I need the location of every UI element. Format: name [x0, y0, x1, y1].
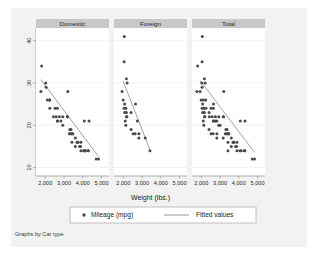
data-point [123, 111, 126, 114]
data-point [58, 115, 61, 118]
data-point [235, 141, 238, 144]
data-point [46, 98, 49, 101]
data-point [202, 98, 205, 101]
data-point [202, 124, 205, 127]
data-point [74, 136, 77, 139]
data-point [212, 103, 215, 106]
data-point [82, 149, 85, 152]
data-point [137, 132, 140, 135]
data-point [148, 149, 151, 152]
data-point [56, 107, 59, 110]
data-point [227, 132, 230, 135]
panel-title: Total [222, 20, 235, 27]
data-point [59, 120, 62, 123]
x-tick-label: 3,000 [57, 180, 71, 186]
data-point [232, 141, 235, 144]
y-tick-label: 30 [26, 80, 32, 86]
data-point [39, 90, 42, 93]
data-point [212, 132, 215, 135]
data-point [48, 107, 51, 110]
stata-graph: 10203040Domestic2,0003,0004,0005,000Fore… [11, 8, 307, 247]
data-point [201, 86, 204, 89]
data-point [126, 81, 129, 84]
data-point [66, 115, 69, 118]
data-point [230, 136, 233, 139]
data-point [79, 145, 82, 148]
data-point [123, 103, 126, 106]
data-point [217, 115, 220, 118]
data-point [212, 107, 215, 110]
data-point [235, 145, 238, 148]
data-point [240, 149, 243, 152]
data-point [70, 128, 73, 131]
data-point [61, 124, 64, 127]
data-point [125, 77, 128, 80]
data-point [123, 35, 126, 38]
panel-domestic: Domestic2,0003,0004,0005,000 [36, 19, 109, 186]
data-point [124, 107, 127, 110]
data-point [222, 115, 225, 118]
data-point [201, 103, 204, 106]
data-point [87, 120, 90, 123]
y-tick-label: 10 [26, 164, 32, 170]
panel-plot-background [192, 28, 265, 176]
data-point [45, 86, 48, 89]
data-point [211, 115, 214, 118]
data-point [212, 120, 215, 123]
x-axis-title: Weight (lbs.) [131, 194, 170, 202]
data-point [70, 141, 73, 144]
data-point [61, 115, 64, 118]
data-point [239, 120, 242, 123]
legend-label-mileage: Mileage (mpg) [91, 211, 133, 219]
data-point [55, 115, 58, 118]
data-point [121, 90, 124, 93]
data-point [202, 120, 205, 123]
data-point [66, 90, 69, 93]
data-point [79, 141, 82, 144]
data-point [124, 124, 127, 127]
panel-foreign: Foreign2,0003,0004,0005,000 [114, 19, 187, 186]
x-tick-label: 2,000 [116, 180, 130, 186]
data-point [130, 111, 133, 114]
data-point [134, 103, 137, 106]
x-tick-label: 2,000 [194, 180, 208, 186]
data-point [222, 136, 225, 139]
data-point [76, 141, 79, 144]
data-point [195, 90, 198, 93]
data-point [122, 98, 125, 101]
graph-caption: Graphs by Car type [15, 231, 64, 237]
panel-title: Domestic [60, 20, 86, 27]
data-point [125, 115, 128, 118]
data-point [201, 35, 204, 38]
data-point [226, 141, 229, 144]
x-tick-label: 4,000 [76, 180, 90, 186]
data-point [208, 115, 211, 118]
data-point [199, 90, 202, 93]
data-point [144, 136, 147, 139]
data-point [40, 65, 43, 68]
data-point [235, 149, 238, 152]
data-point [215, 132, 218, 135]
y-tick-label: 20 [26, 122, 32, 128]
data-point [203, 77, 206, 80]
x-tick-label: 4,000 [154, 180, 168, 186]
data-point [215, 136, 218, 139]
data-point [87, 149, 90, 152]
data-point [136, 120, 139, 123]
x-tick-label: 3,000 [213, 180, 227, 186]
data-point [230, 145, 233, 148]
data-point [56, 120, 59, 123]
x-tick-label: 5,000 [173, 180, 187, 186]
x-tick-label: 5,000 [251, 180, 265, 186]
data-point [124, 120, 127, 123]
data-point [74, 145, 77, 148]
data-point [134, 132, 137, 135]
data-point [201, 60, 204, 63]
panel-title: Foreign [140, 20, 162, 27]
data-point [204, 81, 207, 84]
data-point [71, 132, 74, 135]
data-point [201, 111, 204, 114]
data-point [226, 128, 229, 131]
legend-marker-circle [82, 213, 85, 216]
data-point [208, 111, 211, 114]
